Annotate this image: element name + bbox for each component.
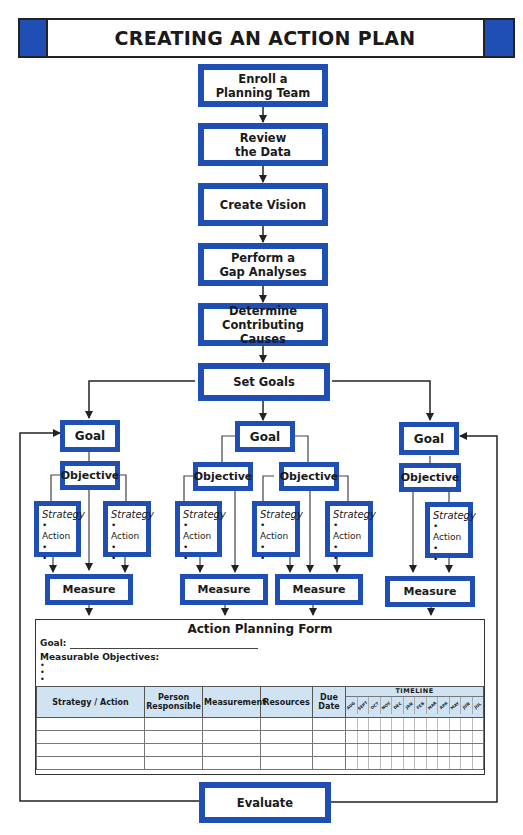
action-planning-form: Action Planning Form Goal: Measurable Ob… (35, 619, 485, 775)
measure-box-middle-2[interactable]: Measure (275, 574, 363, 605)
step-label: Create Vision (220, 198, 307, 212)
month-label: DEC (392, 697, 404, 714)
objective-box-right[interactable]: Objective (399, 463, 461, 492)
strategy-box-middle-2[interactable]: Strategy • Action • • (252, 501, 300, 557)
table-cell[interactable] (203, 718, 261, 731)
table-cell[interactable] (145, 744, 203, 757)
strategy-box-middle-3[interactable]: Strategy • Action • • (325, 501, 373, 557)
step-create-vision[interactable]: Create Vision (198, 183, 328, 226)
month-label: JUN (461, 697, 473, 714)
table-cell[interactable] (261, 757, 313, 770)
bullet: • (183, 553, 214, 564)
table-cell[interactable] (37, 731, 145, 744)
strategy-box-middle-1[interactable]: Strategy • Action • • (175, 501, 222, 557)
month-label: NOV (381, 697, 393, 714)
table-cell[interactable] (261, 718, 313, 731)
strategy-title: Strategy (260, 509, 292, 520)
measure-label: Measure (197, 583, 250, 597)
action-plan-table: Strategy / Action Person Responsible Mea… (36, 686, 484, 770)
col-due-date: Due Date (313, 687, 346, 718)
measure-box-left[interactable]: Measure (45, 574, 133, 605)
table-row (37, 731, 484, 744)
table-cell[interactable] (313, 757, 346, 770)
table-cell[interactable] (203, 744, 261, 757)
measure-label: Measure (62, 583, 115, 597)
month-label: JUL (473, 697, 484, 714)
objective-label: Objective (280, 470, 339, 484)
table-cell[interactable] (37, 757, 145, 770)
timeline-label: TIMELINE (346, 687, 483, 697)
step-label: Set Goals (233, 375, 294, 389)
table-cell[interactable] (145, 757, 203, 770)
month-label: MAR (427, 697, 439, 714)
table-cell[interactable] (37, 744, 145, 757)
action-item: • Action (111, 520, 143, 542)
step-contributing-causes[interactable]: DetermineContributing Causes (198, 303, 328, 346)
action-item: • Action (433, 521, 465, 543)
month-label: APR (438, 697, 450, 714)
evaluate-label: Evaluate (237, 796, 293, 810)
timeline-cell[interactable] (346, 731, 484, 744)
step-label-line2: the Data (235, 145, 291, 159)
form-objective-bullets: • • • (40, 662, 45, 683)
table-cell[interactable] (145, 718, 203, 731)
table-row (37, 757, 484, 770)
month-label: FEB (415, 697, 427, 714)
timeline-cell[interactable] (346, 744, 484, 757)
step-label-line2: Planning Team (216, 86, 311, 100)
goal-label: Goal (414, 432, 444, 446)
bullet: • (260, 553, 292, 564)
col-person-responsible: Person Responsible (145, 687, 203, 718)
objective-box-middle-2[interactable]: Objective (279, 462, 339, 491)
table-cell[interactable] (203, 757, 261, 770)
goal-box-left[interactable]: Goal (60, 420, 120, 452)
strategy-title: Strategy (333, 509, 365, 520)
strategy-title: Strategy (183, 509, 214, 520)
month-label: AUG (346, 697, 358, 714)
measure-box-middle-1[interactable]: Measure (180, 574, 268, 605)
month-label: OCT (369, 697, 381, 714)
month-label: JAN (404, 697, 416, 714)
table-header-row: Strategy / Action Person Responsible Mea… (37, 687, 484, 718)
goal-box-right[interactable]: Goal (399, 422, 459, 455)
objective-box-left[interactable]: Objective (60, 461, 120, 490)
objective-box-middle-1[interactable]: Objective (193, 462, 253, 491)
timeline-cell[interactable] (346, 718, 484, 731)
form-measurable-objectives-label: Measurable Objectives: (40, 652, 159, 662)
strategy-box-right[interactable]: Strategy • Action • • (425, 502, 473, 558)
objective-label: Objective (401, 471, 460, 485)
goal-label: Goal (250, 430, 280, 444)
table-cell[interactable] (37, 718, 145, 731)
strategy-box-left-1[interactable]: Strategy • Action • • (34, 501, 81, 557)
table-cell[interactable] (261, 731, 313, 744)
measure-label: Measure (292, 583, 345, 597)
table-cell[interactable] (261, 744, 313, 757)
col-timeline: TIMELINE AUG SEPT OCT NOV DEC JAN FEB MA… (346, 687, 484, 718)
bullet: • (40, 676, 45, 683)
timeline-cell[interactable] (346, 757, 484, 770)
form-goal-input[interactable] (70, 648, 258, 649)
bullet: • (333, 553, 365, 564)
measure-box-right[interactable]: Measure (385, 576, 475, 607)
table-cell[interactable] (145, 731, 203, 744)
step-review-data[interactable]: Reviewthe Data (198, 123, 328, 166)
table-cell[interactable] (313, 718, 346, 731)
action-item: • Action (333, 520, 365, 542)
evaluate-box[interactable]: Evaluate (199, 782, 331, 823)
step-label-line2: Contributing Causes (204, 318, 322, 346)
step-gap-analyses[interactable]: Perform aGap Analyses (198, 243, 328, 286)
table-cell[interactable] (313, 744, 346, 757)
action-item: • Action (42, 520, 73, 542)
goal-label: Goal (75, 429, 105, 443)
bullet: • (42, 542, 73, 553)
bullet: • (111, 542, 143, 553)
table-cell[interactable] (313, 731, 346, 744)
objective-label: Objective (61, 469, 120, 483)
bullet: • (260, 542, 292, 553)
table-cell[interactable] (203, 731, 261, 744)
goal-box-middle[interactable]: Goal (235, 421, 295, 452)
step-set-goals[interactable]: Set Goals (198, 363, 330, 401)
step-enroll-planning-team[interactable]: Enroll aPlanning Team (198, 64, 328, 107)
strategy-box-left-2[interactable]: Strategy • Action • • (103, 501, 151, 557)
month-label: MAY (450, 697, 462, 714)
